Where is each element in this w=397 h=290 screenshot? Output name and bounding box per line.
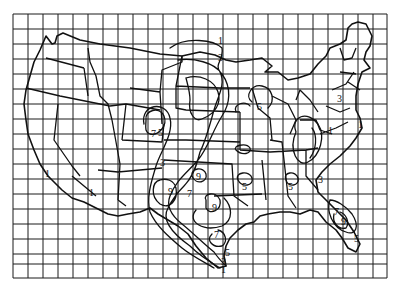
contour-label: 1 <box>328 125 333 136</box>
contour-label: 9 <box>168 186 173 197</box>
contour-label: 7 <box>151 128 156 139</box>
contour-lines <box>144 40 357 268</box>
contour-label: 9 <box>341 216 346 227</box>
contour-label: 9 <box>212 202 217 213</box>
contour-label: 5 <box>158 127 163 138</box>
contour-label: 7 <box>187 188 192 199</box>
us-contour-map: 1 3 5 3 1 1 7 5 3 1 1 5 5 3 9 9 7 9 7 5 … <box>0 0 397 290</box>
contour-label: 3 <box>160 157 165 168</box>
contour-label: 1 <box>218 35 223 46</box>
contour-label: 7 <box>214 229 219 240</box>
contour-label: 5 <box>257 101 262 112</box>
contour-label: 5 <box>288 181 293 192</box>
contour-label: 1 <box>221 264 226 275</box>
contour-label: 3 <box>318 174 323 185</box>
contour-label: 5 <box>354 233 359 244</box>
contour-label: 9 <box>196 171 201 182</box>
contour-label: 1 <box>45 168 50 179</box>
map-grid <box>13 14 387 278</box>
contour-label: 1 <box>358 119 363 130</box>
contour-label: 7 <box>334 206 339 217</box>
contour-label: 3 <box>218 52 223 63</box>
contour-label: 1 <box>89 187 94 198</box>
contour-label: 5 <box>242 181 247 192</box>
contour-label: 3 <box>337 93 342 104</box>
